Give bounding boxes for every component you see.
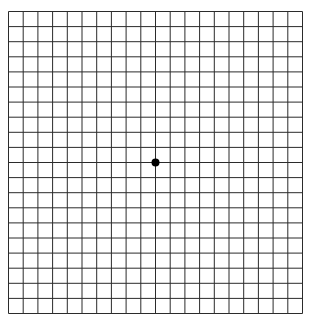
center-fixation-dot	[152, 159, 160, 167]
amsler-grid	[0, 0, 309, 320]
